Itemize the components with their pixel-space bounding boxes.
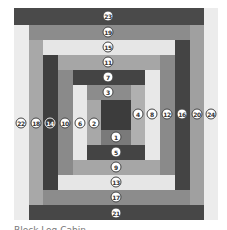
strip-number-badge: 14 (45, 118, 56, 129)
strip-number-badge: 6 (75, 118, 86, 129)
strip-number-badge: 21 (111, 208, 122, 219)
strip-number-badge: 5 (111, 147, 122, 158)
strip-number-badge: 19 (103, 27, 114, 38)
strip-number-badge: 9 (111, 162, 122, 173)
strip-number-badge: 7 (103, 72, 114, 83)
strip-number-badge: 11 (103, 57, 114, 68)
strip-number-badge: 18 (31, 118, 42, 129)
strip-number-badge: 2 (89, 118, 100, 129)
strip-number-badge: 1 (111, 132, 122, 143)
strip-number-badge: 13 (111, 177, 122, 188)
strip-number-badge: 17 (111, 192, 122, 203)
strip-number-badge: 15 (103, 42, 114, 53)
figure-caption: Block Log Cabin (14, 224, 86, 230)
strip-number-badge: 22 (16, 118, 27, 129)
strip-number-badge: 20 (192, 109, 203, 120)
strip-number-badge: 24 (206, 109, 217, 120)
strip-number-badge: 23 (103, 11, 114, 22)
strip-number-badge: 12 (162, 109, 173, 120)
center-square (101, 100, 131, 130)
log-cabin-quilt-block: 242322212019181716151413121110987654321 (0, 0, 227, 230)
strip-number-badge: 4 (133, 109, 144, 120)
strip-number-badge: 3 (103, 87, 114, 98)
strip-number-badge: 8 (147, 109, 158, 120)
strip-number-badge: 10 (60, 118, 71, 129)
strip-number-badge: 16 (177, 109, 188, 120)
